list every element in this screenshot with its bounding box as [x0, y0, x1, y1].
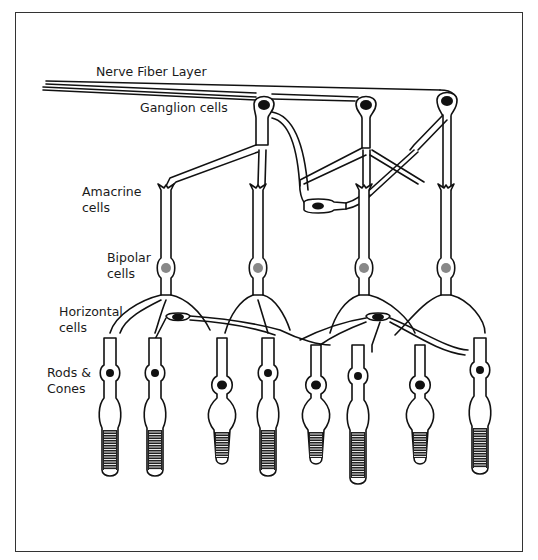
- label-bipolar-line1: Bipolar: [107, 250, 151, 265]
- rod-cell: [347, 345, 369, 484]
- label-amacrine-line1: Amacrine: [82, 184, 142, 199]
- label-nerve-fiber-layer: Nerve Fiber Layer: [96, 64, 207, 79]
- label-horizontal-line2: cells: [59, 320, 87, 335]
- nerve-fiber-layer: [43, 81, 457, 106]
- ganglion-dendrites: [166, 112, 447, 208]
- cone-cell: [302, 345, 329, 464]
- rod-cell: [144, 338, 166, 476]
- rod-cell: [99, 338, 121, 476]
- label-ganglion-cells: Ganglion cells: [140, 100, 228, 115]
- rod-cell: [257, 338, 279, 476]
- cone-cell: [208, 338, 235, 464]
- label-bipolar-line2: cells: [107, 266, 135, 281]
- cone-cell: [406, 345, 433, 464]
- label-rods-line2: Cones: [47, 381, 86, 396]
- photoreceptors: [99, 338, 491, 484]
- label-rods-line1: Rods &: [47, 365, 91, 380]
- label-horizontal-line1: Horizontal: [59, 304, 123, 319]
- label-amacrine-line2: cells: [82, 200, 110, 215]
- rod-cell: [469, 338, 491, 474]
- retina-diagram: [0, 0, 538, 560]
